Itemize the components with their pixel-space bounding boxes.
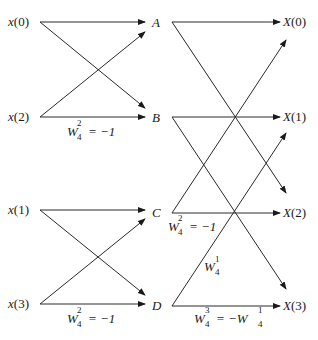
stage1-top-butterfly: [40, 22, 145, 117]
svg-text:2: 2: [77, 118, 82, 128]
svg-text:4: 4: [77, 132, 82, 142]
svg-text:1: 1: [215, 254, 220, 264]
node-label-D: D: [151, 298, 162, 313]
svg-text:1: 1: [258, 305, 263, 315]
twiddle-stage2-C: W 2 4 = −1: [168, 213, 216, 237]
input-label-x3: x(3): [7, 296, 29, 311]
svg-text:4: 4: [205, 319, 210, 329]
svg-text:2: 2: [178, 213, 183, 223]
edge-x1-D: [40, 210, 145, 295]
svg-text:= −1: = −1: [189, 219, 216, 234]
node-label-C: C: [152, 205, 161, 220]
svg-text:4: 4: [178, 227, 183, 237]
twiddle-stage1-bottom: W 2 4 = −1: [67, 305, 115, 329]
input-label-x1: x(1): [7, 202, 29, 217]
edge-C-X0: [172, 40, 286, 213]
fft-butterfly-diagram: x(0) x(2) x(1) x(3) A B C D X(0) X(1) X(…: [0, 0, 318, 340]
twiddle-stage2-D: W 3 4 = −W 1 4: [194, 305, 263, 329]
edge-x3-C: [40, 219, 145, 304]
output-label-X2: X(2): [282, 205, 306, 220]
input-label-x2: x(2): [7, 109, 29, 124]
edge-x2-A: [40, 32, 145, 117]
output-label-X0: X(0): [282, 14, 306, 29]
svg-text:= −1: = −1: [88, 124, 115, 139]
stage2-butterflies: [172, 22, 286, 306]
edge-B-X3: [172, 117, 286, 289]
edge-A-X2: [172, 22, 286, 193]
svg-text:4: 4: [258, 319, 263, 329]
input-label-x0: x(0): [7, 14, 29, 29]
node-label-A: A: [151, 15, 160, 30]
output-label-X1: X(1): [282, 109, 306, 124]
output-label-X3: X(3): [282, 298, 306, 313]
svg-text:4: 4: [215, 267, 220, 277]
stage1-bottom-butterfly: [40, 210, 145, 304]
svg-text:= −W: = −W: [216, 311, 249, 326]
twiddle-stage1-top: W 2 4 = −1: [67, 118, 115, 142]
edge-x0-B: [40, 22, 145, 108]
node-label-B: B: [152, 110, 160, 125]
svg-text:3: 3: [205, 305, 210, 315]
svg-text:4: 4: [77, 319, 82, 329]
svg-text:2: 2: [77, 305, 82, 315]
svg-text:= −1: = −1: [88, 311, 115, 326]
twiddle-stage2-diagonal: W 1 4: [204, 254, 220, 277]
